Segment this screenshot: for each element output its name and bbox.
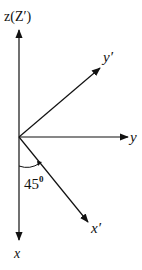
axes-svg: z(Z′) x y y′ x′ 450 — [0, 0, 142, 270]
y-axis-label: y — [128, 129, 137, 145]
angle-label: 450 — [24, 174, 44, 192]
x-axis-label: x — [13, 246, 21, 261]
angle-arc — [19, 163, 40, 167]
z-axis-label: z(Z′) — [4, 9, 31, 25]
x-prime-axis-label: x′ — [90, 220, 102, 236]
y-prime-axis-line — [19, 68, 100, 137]
y-prime-axis-label: y′ — [101, 49, 114, 65]
rotated-axes-diagram: z(Z′) x y y′ x′ 450 — [0, 0, 142, 270]
